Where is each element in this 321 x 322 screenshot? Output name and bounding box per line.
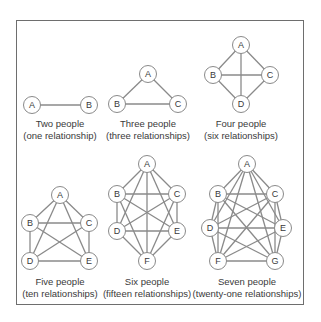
svg-text:A: A	[29, 100, 35, 110]
person-node-f: F	[210, 253, 227, 270]
svg-text:A: A	[238, 40, 244, 50]
caption-four: Four people (six relationships)	[204, 118, 278, 142]
person-node-a: A	[139, 156, 156, 173]
caption-title: Five people	[22, 276, 98, 288]
caption-two: Two people (one relationship)	[23, 118, 96, 142]
svg-text:E: E	[86, 256, 92, 266]
svg-text:D: D	[114, 226, 121, 236]
svg-text:B: B	[215, 189, 221, 199]
svg-text:A: A	[244, 159, 250, 169]
person-node-b: B	[109, 96, 126, 113]
caption-title: Six people	[103, 276, 191, 288]
svg-text:A: A	[145, 69, 151, 79]
person-node-a: A	[24, 97, 41, 114]
caption-subtitle: (fifteen relationships)	[103, 288, 191, 300]
person-node-a: A	[239, 156, 256, 173]
caption-title: Three people	[106, 118, 190, 130]
person-node-c: C	[267, 186, 284, 203]
person-node-d: D	[109, 223, 126, 240]
caption-subtitle: (one relationship)	[23, 130, 96, 142]
svg-text:E: E	[280, 223, 286, 233]
svg-text:D: D	[27, 256, 34, 266]
person-node-b: B	[81, 97, 98, 114]
svg-text:C: C	[174, 189, 181, 199]
person-node-d: D	[233, 96, 250, 113]
person-node-b: B	[205, 67, 222, 84]
edges-layer	[30, 45, 283, 261]
caption-title: Four people	[204, 118, 278, 130]
person-node-b: B	[109, 186, 126, 203]
svg-text:F: F	[144, 256, 150, 266]
svg-text:B: B	[27, 218, 33, 228]
svg-text:B: B	[114, 189, 120, 199]
caption-subtitle: (three relationships)	[106, 130, 190, 142]
nodes-layer: ABABCABCDABCDEABCDEFABCDEFG	[22, 37, 292, 270]
svg-text:A: A	[144, 159, 150, 169]
person-node-e: E	[275, 220, 292, 237]
svg-text:C: C	[86, 218, 93, 228]
svg-text:E: E	[174, 226, 180, 236]
person-node-b: B	[210, 186, 227, 203]
caption-seven: Seven people (twenty-one relationships)	[193, 276, 302, 300]
svg-text:C: C	[267, 70, 274, 80]
svg-text:D: D	[207, 223, 214, 233]
person-node-a: A	[140, 66, 157, 83]
svg-text:B: B	[210, 70, 216, 80]
svg-text:B: B	[86, 100, 92, 110]
relationship-graphs: ABABCABCDABCDEABCDEFABCDEFG	[0, 0, 321, 322]
person-node-b: B	[22, 215, 39, 232]
caption-three: Three people (three relationships)	[106, 118, 190, 142]
svg-text:A: A	[57, 190, 63, 200]
person-node-c: C	[169, 186, 186, 203]
person-node-d: D	[202, 220, 219, 237]
svg-text:D: D	[238, 99, 245, 109]
svg-text:B: B	[114, 99, 120, 109]
person-node-c: C	[170, 96, 187, 113]
caption-title: Seven people	[193, 276, 302, 288]
caption-subtitle: (six relationships)	[204, 130, 278, 142]
person-node-c: C	[81, 215, 98, 232]
caption-five: Five people (ten relationships)	[22, 276, 98, 300]
person-node-g: G	[267, 253, 284, 270]
svg-text:C: C	[272, 189, 279, 199]
svg-text:C: C	[175, 99, 182, 109]
person-node-c: C	[262, 67, 279, 84]
person-node-a: A	[233, 37, 250, 54]
person-node-e: E	[81, 253, 98, 270]
caption-subtitle: (ten relationships)	[22, 288, 98, 300]
person-node-f: F	[139, 253, 156, 270]
person-node-d: D	[22, 253, 39, 270]
svg-text:G: G	[271, 256, 278, 266]
caption-six: Six people (fifteen relationships)	[103, 276, 191, 300]
svg-text:F: F	[215, 256, 221, 266]
person-node-a: A	[52, 187, 69, 204]
person-node-e: E	[169, 223, 186, 240]
caption-title: Two people	[23, 118, 96, 130]
caption-subtitle: (twenty-one relationships)	[193, 288, 302, 300]
